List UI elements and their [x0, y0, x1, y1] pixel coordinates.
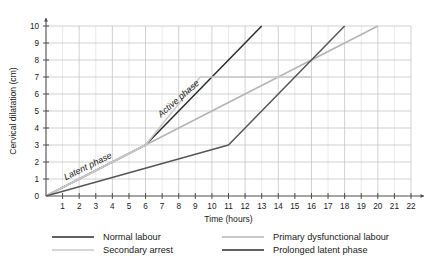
partogram-chart: 1234567891011121314151617181920212201234… [0, 0, 436, 267]
chart-canvas: 1234567891011121314151617181920212201234… [0, 0, 436, 267]
x-tick-label: 10 [207, 202, 217, 211]
y-tick-label: 2 [34, 158, 39, 167]
x-tick-label: 4 [110, 202, 115, 211]
y-tick-label: 7 [34, 73, 39, 82]
y-axis-title: Cervical dilatation (cm) [8, 67, 18, 155]
y-tick-label: 4 [34, 124, 39, 133]
x-tick-label: 20 [373, 202, 383, 211]
x-tick-label: 9 [193, 202, 198, 211]
tick-labels-layer: 1234567891011121314151617181920212201234… [30, 22, 416, 211]
grid-layer [46, 26, 411, 196]
x-tick-label: 18 [340, 202, 350, 211]
y-axis-arrowhead [44, 18, 48, 21]
legend-label: Primary dysfunctional labour [273, 232, 389, 242]
axis-titles-layer: Time (hours)Cervical dilatation (cm) [8, 67, 253, 224]
legend-label: Prolonged latent phase [273, 245, 368, 255]
y-tick-label: 10 [30, 22, 40, 31]
legend-label: Normal labour [103, 232, 161, 242]
x-tick-label: 15 [290, 202, 300, 211]
legend-label: Secondary arrest [103, 245, 173, 255]
x-tick-label: 5 [127, 202, 132, 211]
x-tick-label: 7 [160, 202, 165, 211]
y-tick-label: 3 [34, 141, 39, 150]
x-tick-label: 21 [390, 202, 400, 211]
y-tick-label: 8 [34, 56, 39, 65]
x-tick-label: 8 [176, 202, 181, 211]
chart-legend: Normal labourSecondary arrestPrimary dys… [52, 232, 389, 255]
x-tick-label: 14 [274, 202, 284, 211]
x-tick-label: 12 [241, 202, 251, 211]
phase-annotations-layer: Latent phaseActive phase [62, 78, 201, 182]
y-tick-label: 6 [34, 90, 39, 99]
y-tick-label: 5 [34, 107, 39, 116]
x-tick-label: 6 [143, 202, 148, 211]
x-tick-label: 3 [93, 202, 98, 211]
y-tick-label: 0 [34, 192, 39, 201]
y-tick-label: 1 [34, 175, 39, 184]
x-tick-label: 22 [406, 202, 416, 211]
x-axis-arrowhead [421, 194, 424, 198]
x-tick-label: 13 [257, 202, 267, 211]
x-tick-label: 16 [307, 202, 317, 211]
axes-layer [44, 18, 424, 198]
x-tick-label: 2 [77, 202, 82, 211]
y-tick-label: 9 [34, 39, 39, 48]
x-tick-label: 17 [323, 202, 333, 211]
x-axis-title: Time (hours) [204, 214, 253, 224]
x-tick-label: 19 [357, 202, 367, 211]
x-tick-label: 11 [224, 202, 233, 211]
x-tick-label: 1 [60, 202, 65, 211]
